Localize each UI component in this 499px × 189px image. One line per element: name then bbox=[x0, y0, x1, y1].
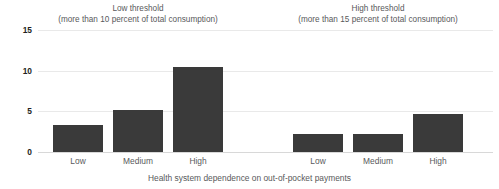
x-label-high-threshold-low: Low bbox=[310, 156, 325, 166]
x-label-low-threshold-medium: Medium bbox=[123, 156, 153, 166]
x-label-high-threshold-high: High bbox=[429, 156, 446, 166]
bar-high-threshold-low bbox=[293, 134, 343, 152]
gridline-15 bbox=[38, 30, 493, 31]
bar-low-threshold-high bbox=[173, 67, 223, 152]
gridline-10 bbox=[38, 71, 493, 72]
bar-high-threshold-medium bbox=[353, 134, 403, 152]
panel-title-high-threshold: High threshold (more than 15 percent of … bbox=[258, 4, 498, 25]
panel-title-low-line1: Low threshold bbox=[18, 4, 258, 15]
y-tick-label-5: 5 bbox=[27, 106, 32, 116]
panel-title-low-line2: (more than 10 percent of total consumpti… bbox=[18, 15, 258, 26]
y-tick-label-0: 0 bbox=[27, 147, 32, 157]
gridline-0 bbox=[38, 152, 493, 153]
x-label-low-threshold-low: Low bbox=[70, 156, 85, 166]
panel-title-high-line2: (more than 15 percent of total consumpti… bbox=[258, 15, 498, 26]
panel-title-high-line1: High threshold bbox=[258, 4, 498, 15]
x-label-high-threshold-medium: Medium bbox=[363, 156, 393, 166]
x-label-low-threshold-high: High bbox=[189, 156, 206, 166]
bar-low-threshold-medium bbox=[113, 110, 163, 152]
plot-area: 051015 bbox=[38, 30, 493, 152]
bar-chart: Low threshold (more than 10 percent of t… bbox=[0, 0, 499, 189]
x-axis-title: Health system dependence on out-of-pocke… bbox=[0, 173, 499, 183]
gridline-5 bbox=[38, 111, 493, 112]
y-tick-label-10: 10 bbox=[23, 66, 32, 76]
bar-low-threshold-low bbox=[53, 125, 103, 152]
bar-high-threshold-high bbox=[413, 114, 463, 152]
panel-title-low-threshold: Low threshold (more than 10 percent of t… bbox=[18, 4, 258, 25]
y-tick-label-15: 15 bbox=[23, 25, 32, 35]
